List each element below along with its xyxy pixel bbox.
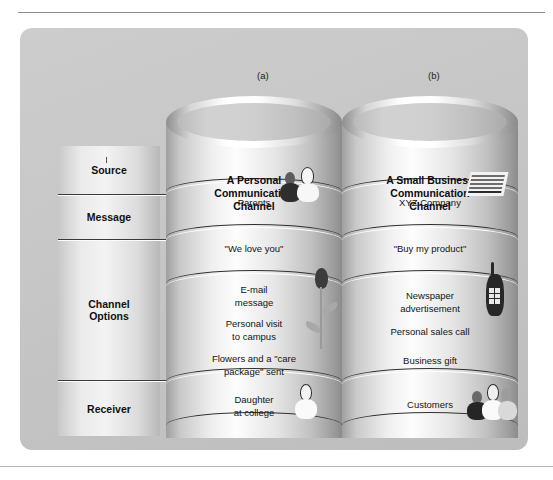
cylinder-a-message-text: "We love you" xyxy=(166,243,342,255)
row-label-receiver: Receiver xyxy=(58,382,160,436)
document-line-2 xyxy=(471,179,504,181)
column-caption-a: (a) xyxy=(257,70,269,81)
flower-stem xyxy=(320,287,322,349)
group-person-3-head xyxy=(501,388,511,402)
cylinder-a-rim xyxy=(166,96,342,148)
document-sheet xyxy=(465,172,508,196)
header-rule xyxy=(18,12,545,13)
group-person-3-body xyxy=(498,401,517,420)
row-label-source: Source xyxy=(58,146,160,194)
cylinder-b-opt1-line2: advertisement xyxy=(400,303,460,314)
footer-rule xyxy=(0,466,553,467)
row-label-message: Message xyxy=(58,195,160,239)
cylinder-b-title-line2: Communication xyxy=(390,187,469,199)
cylinder-b-opt1-line1: Newspaper xyxy=(406,290,454,301)
cylinder-b-title-line3: Channel xyxy=(409,200,450,212)
document-line-4 xyxy=(469,187,502,189)
cylinder-b-channel-option-3: Business gift xyxy=(342,355,518,367)
row-label-message-text: Message xyxy=(87,211,131,223)
cylinder-a-channel-option-3: Flowers and a "care package" sent xyxy=(166,352,342,378)
cylinder-a-opt1-line1: E-mail xyxy=(241,284,268,295)
connector-source-highlight xyxy=(138,195,166,196)
person-light-body xyxy=(297,183,319,202)
cylinder-a-receiver-line2: at college xyxy=(234,407,275,418)
cylinder-b-message-text: "Buy my product" xyxy=(342,243,518,255)
row-label-receiver-text: Receiver xyxy=(87,403,131,415)
cylinder-a-opt2-line1: Personal visit xyxy=(226,318,283,329)
channel-cylinder-b: A Small Business Communication Channel X… xyxy=(342,96,518,438)
cylinder-a-title-line3: Channel xyxy=(233,200,274,212)
document-line-5 xyxy=(468,191,501,193)
cylinder-b-rim-inner xyxy=(353,103,507,141)
group-person-2-head xyxy=(487,384,499,401)
cylinder-a-opt2-line2: to campus xyxy=(232,331,276,342)
phone-keypad xyxy=(489,288,500,304)
cylinder-a-receiver-line1: Daughter xyxy=(234,394,273,405)
row-label-column: Source Message Channel Options Receiver xyxy=(58,146,160,436)
figure-panel: (a) (b) Source Message Channel Options R… xyxy=(20,28,528,450)
person-body xyxy=(295,399,317,419)
cylinder-a-rim-inner xyxy=(177,103,331,141)
channel-cylinder-a: A Personal Communication Channel Parents… xyxy=(166,96,342,438)
row-label-channel-options-text: Channel Options xyxy=(88,298,129,322)
cylinder-b-channel-option-2: Personal sales call xyxy=(342,326,518,338)
connector-message-highlight xyxy=(138,240,166,241)
cylinder-a-title-line1: A Personal xyxy=(227,174,281,186)
keypad-col-line xyxy=(494,288,495,304)
group-of-people-icon xyxy=(466,382,518,422)
single-person-icon xyxy=(292,384,322,420)
row-label-channel-options: Channel Options xyxy=(58,240,160,380)
flower-bud xyxy=(315,268,328,289)
cylinder-a-opt1-line2: message xyxy=(235,297,274,308)
cylinder-a-opt3-line1: Flowers and a "care xyxy=(212,353,296,364)
connector-receiver-highlight xyxy=(138,381,166,382)
row-label-source-text: Source xyxy=(91,164,127,176)
column-caption-b: (b) xyxy=(428,70,440,81)
row-label-channel-line2: Options xyxy=(89,310,129,322)
cylinder-a-opt3-line2: package" sent xyxy=(224,366,284,377)
two-people-icon xyxy=(278,164,326,204)
row-label-channel-line1: Channel xyxy=(88,298,129,310)
flower-leaf-right xyxy=(321,302,339,315)
document-letterhead-icon xyxy=(468,172,512,202)
document-line-1 xyxy=(472,175,505,177)
mobile-phone-icon xyxy=(484,262,512,324)
rose-flower-icon xyxy=(306,268,340,350)
document-line-3 xyxy=(470,183,503,185)
cylinder-b-rim xyxy=(342,96,518,148)
cylinder-b-title-line1: A Small Business xyxy=(386,174,474,186)
